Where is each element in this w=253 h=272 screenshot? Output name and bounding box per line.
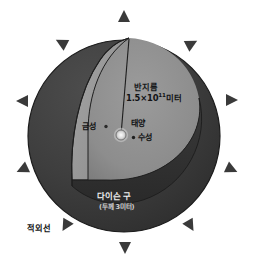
arrow-lower-left bbox=[14, 161, 30, 177]
label-infrared: 적외선 bbox=[27, 224, 50, 233]
arrow-top bbox=[118, 10, 130, 22]
arrow-upper-right bbox=[184, 35, 200, 51]
radius-exponent: 11 bbox=[158, 92, 165, 98]
label-dyson-sphere-thickness: (두께 3미터) bbox=[99, 204, 134, 212]
arrow-bottom-right bbox=[182, 218, 198, 234]
sun-marker bbox=[116, 130, 126, 140]
label-dyson-sphere: 다이슨 구 bbox=[97, 192, 131, 202]
label-radius-value: 1.5×1011미터 bbox=[126, 94, 181, 104]
label-mercury: 수성 bbox=[138, 133, 152, 142]
radius-mantissa: 1.5×10 bbox=[126, 93, 158, 103]
label-sun: 태양 bbox=[131, 119, 145, 128]
arrow-left bbox=[16, 95, 28, 107]
dyson-sphere-diagram: 반지름 1.5×1011미터 금성 태양 수성 다이슨 구 (두께 3미터) 적… bbox=[0, 0, 253, 272]
venus-marker bbox=[104, 125, 107, 128]
arrow-upper-left bbox=[53, 34, 69, 50]
arrow-bottom-left bbox=[57, 218, 73, 234]
arrow-lower-right bbox=[224, 161, 240, 177]
label-venus: 금성 bbox=[82, 122, 96, 131]
mercury-marker bbox=[132, 136, 135, 139]
arrow-bottom bbox=[119, 242, 131, 254]
radius-unit: 미터 bbox=[166, 93, 182, 103]
label-radius: 반지름 bbox=[134, 83, 157, 92]
arrow-right bbox=[226, 94, 238, 106]
